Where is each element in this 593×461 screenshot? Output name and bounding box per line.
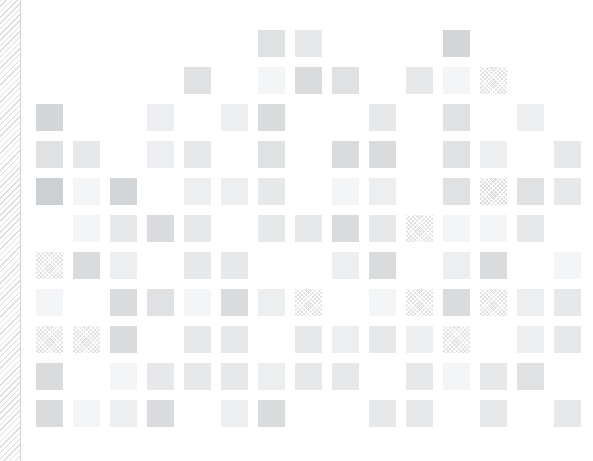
heatmap-cell <box>369 215 396 242</box>
heatmap-cell <box>221 252 248 279</box>
heatmap-cell <box>369 178 396 205</box>
heatmap-cell <box>258 67 285 94</box>
heatmap-cell <box>184 141 211 168</box>
heatmap-cell <box>258 30 285 57</box>
heatmap-cell <box>295 326 322 353</box>
heatmap-cell <box>554 326 581 353</box>
heatmap-cell <box>36 178 63 205</box>
heatmap-cell <box>480 67 507 94</box>
heatmap-cell <box>554 400 581 427</box>
heatmap-cell <box>369 400 396 427</box>
heatmap-cell <box>258 141 285 168</box>
heatmap-cell <box>295 289 322 316</box>
heatmap-cell <box>443 363 470 390</box>
heatmap-cell <box>73 215 100 242</box>
heatmap-cell <box>73 326 100 353</box>
diagonal-stripe-band <box>0 0 21 461</box>
heatmap-cell <box>184 363 211 390</box>
heatmap-cell <box>406 363 433 390</box>
heatmap-cell <box>443 30 470 57</box>
heatmap-cell <box>258 178 285 205</box>
heatmap-cell <box>480 289 507 316</box>
heatmap-cell <box>332 252 359 279</box>
heatmap-cell <box>295 363 322 390</box>
heatmap-cell <box>110 178 137 205</box>
heatmap-cell <box>332 363 359 390</box>
heatmap-cell <box>147 289 174 316</box>
heatmap-cell <box>369 326 396 353</box>
heatmap-cell <box>295 215 322 242</box>
heatmap-cell <box>332 215 359 242</box>
heatmap-cell <box>332 326 359 353</box>
heatmap-cell <box>221 104 248 131</box>
heatmap-cell <box>73 252 100 279</box>
heatmap-cell <box>517 289 544 316</box>
heatmap-cell <box>73 400 100 427</box>
heatmap-cell <box>184 252 211 279</box>
heatmap-cell <box>480 141 507 168</box>
heatmap-cell <box>406 289 433 316</box>
heatmap-cell <box>406 400 433 427</box>
heatmap-cell <box>184 289 211 316</box>
heatmap-cell <box>443 141 470 168</box>
heatmap-cell <box>480 363 507 390</box>
heatmap-cell <box>36 363 63 390</box>
heatmap-cell <box>36 326 63 353</box>
heatmap-cell <box>406 326 433 353</box>
heatmap-cell <box>443 326 470 353</box>
heatmap-cell <box>221 400 248 427</box>
heatmap-cell <box>258 363 285 390</box>
heatmap-cell <box>36 400 63 427</box>
heatmap-cell <box>147 363 174 390</box>
heatmap-cell <box>221 289 248 316</box>
heatmap-cell <box>258 289 285 316</box>
heatmap-cell <box>184 178 211 205</box>
heatmap-cell <box>554 178 581 205</box>
heatmap-cell <box>147 215 174 242</box>
heatmap-cell <box>221 326 248 353</box>
heatmap-cell <box>110 289 137 316</box>
heatmap-cell <box>480 178 507 205</box>
plot-canvas <box>21 0 593 461</box>
heatmap-cell <box>258 215 285 242</box>
heatmap-cell <box>517 215 544 242</box>
heatmap-cell <box>147 400 174 427</box>
heatmap-cell <box>73 141 100 168</box>
heatmap-cell <box>443 252 470 279</box>
heatmap-cell <box>110 363 137 390</box>
heatmap-cell <box>258 400 285 427</box>
heatmap-cell <box>36 289 63 316</box>
heatmap-cell <box>406 215 433 242</box>
heatmap-cell <box>147 104 174 131</box>
heatmap-cell <box>517 326 544 353</box>
heatmap-cell <box>184 326 211 353</box>
heatmap-cell <box>221 363 248 390</box>
heatmap-cell <box>332 141 359 168</box>
heatmap-cell <box>554 289 581 316</box>
heatmap-cell <box>258 104 285 131</box>
heatmap-cell <box>369 104 396 131</box>
heatmap-cell <box>480 252 507 279</box>
heatmap-cell <box>36 141 63 168</box>
heatmap-cell <box>73 178 100 205</box>
heatmap-cell <box>443 178 470 205</box>
heatmap-cell <box>443 289 470 316</box>
heatmap-cell <box>369 141 396 168</box>
heatmap-cell <box>332 178 359 205</box>
heatmap-cell <box>369 252 396 279</box>
heatmap-cell <box>184 67 211 94</box>
heatmap-cell <box>184 215 211 242</box>
heatmap-cell <box>221 178 248 205</box>
heatmap-cell <box>480 400 507 427</box>
heatmap-cell <box>110 326 137 353</box>
heatmap-cell <box>443 104 470 131</box>
heatmap-figure <box>0 0 593 461</box>
heatmap-cell <box>406 67 433 94</box>
heatmap-cell <box>110 215 137 242</box>
heatmap-cell <box>36 104 63 131</box>
heatmap-cell <box>480 215 507 242</box>
heatmap-cell <box>110 400 137 427</box>
heatmap-cell <box>517 363 544 390</box>
heatmap-cell <box>517 178 544 205</box>
heatmap-cell <box>443 215 470 242</box>
